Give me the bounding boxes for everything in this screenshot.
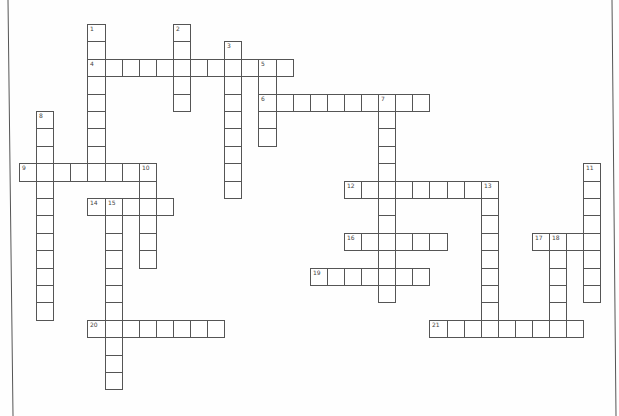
crossword-cell[interactable] xyxy=(395,268,413,286)
crossword-cell[interactable] xyxy=(70,163,88,182)
crossword-cell[interactable] xyxy=(173,59,191,77)
crossword-cell[interactable] xyxy=(447,320,465,338)
crossword-cell[interactable] xyxy=(105,337,123,356)
crossword-cell[interactable] xyxy=(481,250,499,269)
crossword-cell[interactable] xyxy=(87,94,106,112)
crossword-cell[interactable] xyxy=(583,285,601,303)
crossword-cell[interactable] xyxy=(361,94,379,112)
crossword-cell[interactable] xyxy=(87,111,106,129)
crossword-cell[interactable] xyxy=(105,320,123,338)
crossword-cell[interactable]: 2 xyxy=(173,24,191,42)
crossword-cell[interactable]: 9 xyxy=(19,163,37,182)
crossword-cell[interactable] xyxy=(481,198,499,216)
crossword-cell[interactable] xyxy=(429,233,448,251)
crossword-cell[interactable] xyxy=(224,128,242,147)
crossword-cell[interactable] xyxy=(36,302,54,321)
crossword-cell[interactable] xyxy=(378,111,396,129)
crossword-cell[interactable] xyxy=(395,233,413,251)
crossword-cell[interactable] xyxy=(173,76,191,95)
crossword-cell[interactable] xyxy=(583,198,601,216)
crossword-cell[interactable] xyxy=(122,320,140,338)
crossword-cell[interactable] xyxy=(87,41,106,60)
crossword-cell[interactable] xyxy=(36,268,54,286)
crossword-cell[interactable] xyxy=(36,146,54,164)
crossword-cell[interactable] xyxy=(481,268,499,286)
crossword-cell[interactable] xyxy=(105,302,123,321)
crossword-cell[interactable]: 4 xyxy=(87,59,106,77)
crossword-cell[interactable] xyxy=(464,320,482,338)
crossword-cell[interactable] xyxy=(224,146,242,164)
crossword-cell[interactable] xyxy=(327,268,345,286)
crossword-cell[interactable] xyxy=(87,76,106,95)
crossword-cell[interactable] xyxy=(583,233,601,251)
crossword-cell[interactable] xyxy=(258,128,277,147)
crossword-cell[interactable] xyxy=(36,198,54,216)
crossword-cell[interactable] xyxy=(105,59,123,77)
crossword-cell[interactable] xyxy=(481,320,499,338)
crossword-cell[interactable] xyxy=(190,320,208,338)
crossword-cell[interactable]: 21 xyxy=(429,320,448,338)
crossword-cell[interactable] xyxy=(378,250,396,269)
crossword-cell[interactable] xyxy=(583,181,601,199)
crossword-cell[interactable]: 11 xyxy=(583,163,601,182)
crossword-cell[interactable] xyxy=(173,94,191,112)
crossword-cell[interactable] xyxy=(378,146,396,164)
crossword-cell[interactable] xyxy=(327,94,345,112)
crossword-cell[interactable] xyxy=(412,181,430,199)
crossword-cell[interactable] xyxy=(498,320,516,338)
crossword-cell[interactable] xyxy=(276,94,294,112)
crossword-cell[interactable] xyxy=(224,163,242,182)
crossword-cell[interactable] xyxy=(361,268,379,286)
crossword-cell[interactable] xyxy=(139,198,157,216)
crossword-cell[interactable] xyxy=(515,320,533,338)
crossword-cell[interactable] xyxy=(583,268,601,286)
crossword-cell[interactable] xyxy=(224,59,242,77)
crossword-cell[interactable] xyxy=(395,181,413,199)
crossword-cell[interactable] xyxy=(378,128,396,147)
crossword-cell[interactable]: 19 xyxy=(310,268,328,286)
crossword-cell[interactable] xyxy=(105,372,123,390)
crossword-cell[interactable] xyxy=(258,76,277,95)
crossword-cell[interactable] xyxy=(464,181,482,199)
crossword-cell[interactable] xyxy=(105,268,123,286)
crossword-cell[interactable] xyxy=(378,285,396,303)
crossword-cell[interactable] xyxy=(412,268,430,286)
crossword-cell[interactable]: 17 xyxy=(532,233,550,251)
crossword-cell[interactable] xyxy=(276,59,294,77)
crossword-cell[interactable] xyxy=(566,320,584,338)
crossword-cell[interactable] xyxy=(156,320,174,338)
crossword-cell[interactable] xyxy=(36,215,54,234)
crossword-cell[interactable]: 13 xyxy=(481,181,499,199)
crossword-cell[interactable] xyxy=(378,233,396,251)
crossword-cell[interactable] xyxy=(190,59,208,77)
crossword-cell[interactable] xyxy=(549,285,567,303)
crossword-cell[interactable]: 10 xyxy=(139,163,157,182)
crossword-cell[interactable] xyxy=(412,233,430,251)
crossword-cell[interactable] xyxy=(36,285,54,303)
crossword-cell[interactable] xyxy=(139,320,157,338)
crossword-cell[interactable] xyxy=(224,181,242,199)
crossword-cell[interactable] xyxy=(87,146,106,164)
crossword-cell[interactable] xyxy=(378,268,396,286)
crossword-cell[interactable] xyxy=(122,198,140,216)
crossword-cell[interactable] xyxy=(36,233,54,251)
crossword-cell[interactable]: 18 xyxy=(549,233,567,251)
crossword-cell[interactable] xyxy=(36,128,54,147)
crossword-cell[interactable] xyxy=(549,320,567,338)
crossword-cell[interactable]: 14 xyxy=(87,198,106,216)
crossword-cell[interactable] xyxy=(87,163,106,182)
crossword-cell[interactable] xyxy=(481,215,499,234)
crossword-cell[interactable] xyxy=(36,163,54,182)
crossword-cell[interactable] xyxy=(429,181,448,199)
crossword-cell[interactable] xyxy=(532,320,550,338)
crossword-cell[interactable] xyxy=(207,320,225,338)
crossword-cell[interactable]: 8 xyxy=(36,111,54,129)
crossword-cell[interactable] xyxy=(549,250,567,269)
crossword-cell[interactable] xyxy=(173,320,191,338)
crossword-cell[interactable]: 1 xyxy=(87,24,106,42)
crossword-cell[interactable] xyxy=(156,59,174,77)
crossword-cell[interactable] xyxy=(378,215,396,234)
crossword-cell[interactable]: 5 xyxy=(258,59,277,77)
crossword-cell[interactable] xyxy=(412,94,430,112)
crossword-cell[interactable]: 12 xyxy=(344,181,362,199)
